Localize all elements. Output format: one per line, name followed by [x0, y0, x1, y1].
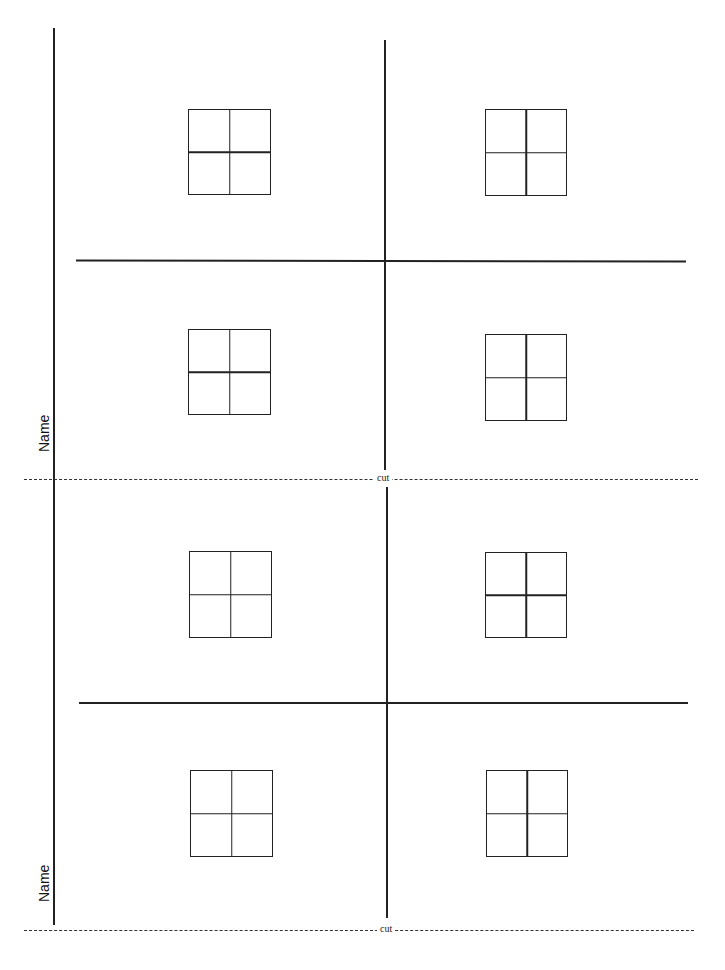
horizontal-divider-bottom	[79, 702, 688, 704]
grid-box-2	[485, 109, 567, 196]
grid-divider-horizontal	[486, 594, 566, 596]
grid-box-8	[486, 770, 568, 857]
name-label-bottom: Name	[36, 865, 52, 902]
cut-label-bottom: cut	[377, 923, 395, 935]
grid-box-5	[189, 551, 272, 638]
horizontal-divider-top	[76, 259, 686, 262]
left-margin-line	[53, 28, 55, 925]
grid-divider-horizontal	[487, 813, 567, 815]
grid-box-1	[188, 109, 271, 195]
grid-divider-horizontal	[190, 594, 271, 596]
grid-box-3	[188, 329, 271, 415]
grid-divider-horizontal	[191, 813, 272, 815]
cut-line-middle	[24, 479, 698, 480]
grid-divider-horizontal	[486, 377, 566, 379]
grid-divider-horizontal	[189, 151, 270, 153]
grid-divider-horizontal	[189, 371, 270, 373]
name-label-top: Name	[36, 415, 52, 452]
grid-box-4	[485, 334, 567, 421]
center-divider-top	[384, 40, 386, 470]
grid-divider-horizontal	[486, 152, 566, 154]
cut-label-middle: cut	[374, 472, 392, 484]
grid-box-7	[190, 770, 273, 857]
cut-line-bottom	[24, 930, 694, 931]
grid-box-6	[485, 552, 567, 638]
